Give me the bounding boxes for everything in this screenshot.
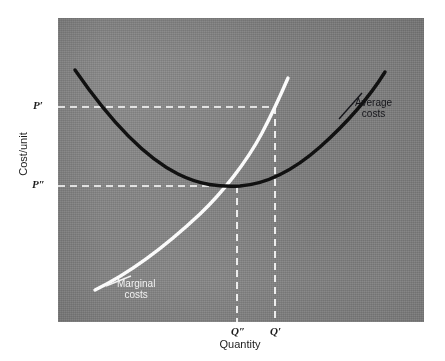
x-axis-title: Quantity [190, 338, 290, 350]
x-tick-label-q-prime: Q′ [270, 325, 281, 337]
y-tick-label-p-double-prime: P″ [32, 178, 45, 190]
cost-curves-figure: P′ P″ Q″ Q′ Cost/unit Quantity Average c… [0, 0, 445, 361]
reference-lines [58, 107, 276, 322]
x-tick-label-q-double-prime: Q″ [231, 325, 245, 337]
y-axis-title: Cost/unit [17, 114, 29, 194]
average-costs-curve [75, 70, 385, 186]
curve-layer [0, 0, 445, 361]
y-tick-label-p-prime: P′ [33, 99, 43, 111]
